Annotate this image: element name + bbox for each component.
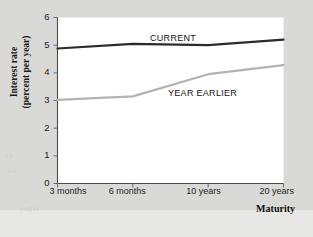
x-tick-label-10-years: 10 years bbox=[186, 186, 221, 196]
x-axis-title: Maturity bbox=[256, 203, 295, 214]
y-axis-title: Interest rate (percent per year) bbox=[8, 12, 32, 132]
series-label-current: CURRENT bbox=[150, 33, 196, 43]
y-tick-label-3: 3 bbox=[36, 94, 50, 105]
scan-artifact-b: o r. bbox=[8, 167, 17, 175]
y-tick-label-0: 0 bbox=[36, 177, 50, 188]
y-tick-label-6: 6 bbox=[36, 11, 50, 22]
y-tick-label-2: 2 bbox=[36, 122, 50, 133]
scan-artifact-c: (vd) bi bbox=[20, 205, 39, 213]
y-tick-label-4: 4 bbox=[36, 66, 50, 77]
x-tick-label-6-months: 6 months bbox=[109, 186, 146, 196]
y-tick-label-1: 1 bbox=[36, 149, 50, 160]
x-tick-label-20-years: 20 years bbox=[260, 186, 295, 196]
y-tick-label-5: 5 bbox=[36, 39, 50, 50]
series-label-year-earlier: YEAR EARLIER bbox=[168, 88, 237, 98]
y-axis-title-line1: Interest rate bbox=[8, 12, 20, 132]
scan-artifact-a: ( ) bbox=[6, 151, 12, 159]
y-axis-title-line2: (percent per year) bbox=[20, 12, 32, 132]
figure-container: Interest rate (percent per year) Maturit… bbox=[0, 0, 313, 237]
x-tick-label-3-months: 3 months bbox=[50, 186, 87, 196]
